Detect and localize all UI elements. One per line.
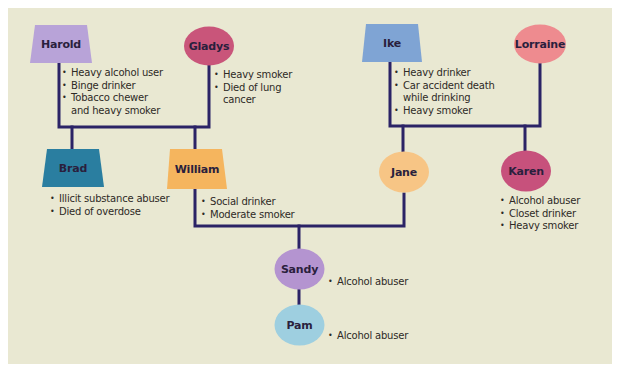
note: Heavy alcohol user [62,67,163,80]
person-karen[interactable]: Karen [500,150,552,192]
person-harold[interactable]: Harold [29,24,93,64]
person-name: Pam [286,319,312,332]
note: Heavy smoker [394,105,495,118]
person-sandy[interactable]: Sandy [274,248,325,290]
pam-notes: Alcohol abuser [328,330,408,343]
brad-notes: Illicit substance abuser Died of overdos… [50,193,169,218]
note: Heavy smoker [500,220,580,233]
person-name: Sandy [281,263,318,276]
person-jane[interactable]: Jane [378,151,430,193]
note: Heavy drinker [394,67,495,80]
note: Alcohol abuser [500,195,580,208]
note: Died of lung [214,82,292,95]
person-name: Karen [508,165,544,178]
person-gladys[interactable]: Gladys [183,26,235,66]
note: Social drinker [201,196,295,209]
note: Tobacco chewer [62,92,163,105]
person-name: Brad [59,162,87,175]
note: Heavy smoker [214,69,292,82]
person-name: Lorraine [515,38,565,51]
person-name: Ike [383,37,401,50]
note: Alcohol abuser [328,276,408,289]
note-continued: and heavy smoker [62,105,163,118]
person-name: Harold [41,38,81,51]
person-ike[interactable]: Ike [361,23,423,63]
william-notes: Social drinker Moderate smoker [201,196,295,221]
note: Binge drinker [62,80,163,93]
person-william[interactable]: William [166,148,228,190]
person-pam[interactable]: Pam [274,304,325,346]
note-continued: cancer [214,94,292,107]
harold-notes: Heavy alcohol user Binge drinker Tobacco… [62,67,163,117]
note: Alcohol abuser [328,330,408,343]
note: Illicit substance abuser [50,193,169,206]
person-brad[interactable]: Brad [41,148,105,188]
note: Moderate smoker [201,209,295,222]
person-name: Jane [391,166,417,179]
note: Died of overdose [50,206,169,219]
person-name: Gladys [189,40,230,53]
sandy-notes: Alcohol abuser [328,276,408,289]
note: Closet drinker [500,208,580,221]
note: Car accident death [394,80,495,93]
person-name: William [175,163,220,176]
gladys-notes: Heavy smoker Died of lung cancer [214,69,292,107]
karen-notes: Alcohol abuser Closet drinker Heavy smok… [500,195,580,233]
person-lorraine[interactable]: Lorraine [513,24,567,64]
note-continued: while drinking [394,92,495,105]
ike-notes: Heavy drinker Car accident death while d… [394,67,495,117]
